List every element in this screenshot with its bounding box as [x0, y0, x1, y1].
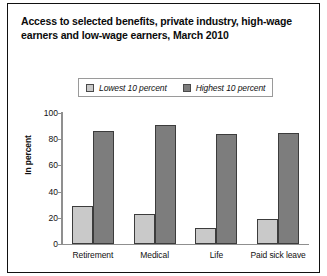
- y-tick-label: 20: [34, 213, 58, 223]
- bar-highest: [93, 131, 114, 244]
- bar-group: [247, 113, 309, 244]
- bar-group: [186, 113, 248, 244]
- chart-figure: Access to selected benefits, private ind…: [0, 0, 327, 276]
- bar-lowest: [195, 228, 216, 244]
- bars-container: [62, 113, 309, 244]
- bar-highest: [216, 134, 237, 244]
- bar-lowest: [72, 206, 93, 244]
- bar-highest: [155, 125, 176, 244]
- y-axis-label: In percent: [23, 125, 33, 185]
- bar-lowest: [134, 214, 155, 244]
- bar-group: [124, 113, 186, 244]
- x-tick-label: Retirement: [62, 250, 124, 260]
- y-tick-label: 40: [34, 187, 58, 197]
- y-tick-label: 100: [34, 108, 58, 118]
- x-tick-label: Medical: [124, 250, 186, 260]
- bar-lowest: [257, 219, 278, 244]
- x-tick-label: Life: [186, 250, 248, 260]
- y-tick-label: 60: [34, 160, 58, 170]
- y-tick-label: 80: [34, 134, 58, 144]
- bar-highest: [278, 133, 299, 244]
- y-tick-mark: [57, 244, 62, 245]
- bar-group: [62, 113, 124, 244]
- plot-area: In percent 100806040200 RetirementMedica…: [0, 0, 327, 276]
- y-tick-label: 0: [34, 239, 58, 249]
- x-tick-label: Paid sick leave: [247, 250, 309, 260]
